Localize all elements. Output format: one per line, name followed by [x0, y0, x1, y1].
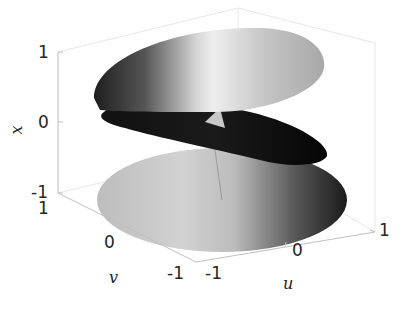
x-axis-label: x — [9, 125, 25, 134]
top-sheet — [94, 28, 324, 112]
v-tick-neg1: -1 — [167, 265, 184, 282]
u-tick-1: 1 — [379, 222, 390, 239]
x-tick-1: 1 — [38, 44, 49, 61]
u-tick-neg1: -1 — [205, 265, 222, 282]
v-tick-0: 0 — [104, 234, 115, 251]
v-tick-1: 1 — [38, 200, 49, 217]
x-tick-0: 0 — [38, 114, 49, 131]
u-axis-label: u — [283, 276, 293, 292]
v-axis-label: v — [109, 270, 118, 286]
u-tick-0: 0 — [292, 242, 303, 259]
